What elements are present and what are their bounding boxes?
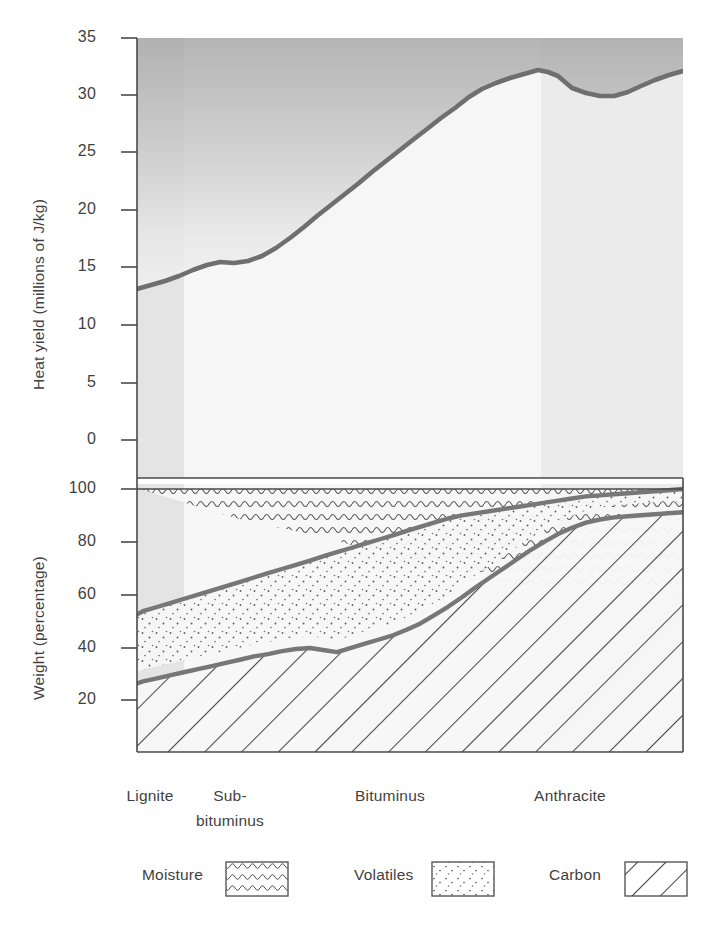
upper-panel: [137, 38, 683, 478]
legend-label-moisture: Moisture: [142, 866, 203, 884]
legend-item-carbon: Carbon: [549, 866, 601, 884]
legend-item-volatiles: Volatiles: [354, 866, 414, 884]
legend-label-volatiles: Volatiles: [354, 866, 414, 884]
legend-swatch-carbon: [625, 862, 687, 896]
legend-label-carbon: Carbon: [549, 866, 601, 884]
coal-rank-chart-figure: Heat yield (millions of J/kg) Weight (pe…: [0, 0, 710, 934]
xcat-bituminus: Bituminus: [325, 787, 455, 805]
band-anthracite: [541, 38, 683, 478]
lower-panel: [137, 484, 683, 752]
xcat-anthracite: Anthracite: [500, 787, 640, 805]
upper-axis: [121, 38, 137, 478]
legend-item-moisture: Moisture: [142, 866, 203, 884]
xcat-subbituminus-line1: Sub-: [170, 787, 290, 805]
legend-swatch-volatiles: [432, 862, 494, 896]
xcat-subbituminus-line2: bituminus: [170, 812, 290, 830]
legend-swatches: [226, 862, 687, 896]
legend-swatch-moisture: [226, 862, 288, 896]
